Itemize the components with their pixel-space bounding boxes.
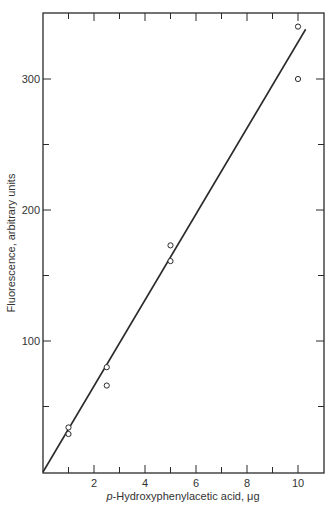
plot-frame [43, 13, 324, 473]
data-point [104, 365, 109, 370]
x-tick-label: 8 [244, 477, 250, 489]
data-point [295, 76, 300, 81]
data-point [66, 425, 71, 430]
plot-border [43, 13, 324, 473]
x-axis-label-prefix: p [105, 490, 112, 502]
y-tick-label: 100 [22, 335, 40, 347]
fit-line [43, 29, 306, 472]
x-axis-ticks: 246810 [69, 13, 305, 489]
data-point [104, 383, 109, 388]
y-tick-label: 300 [22, 73, 40, 85]
data-point [168, 243, 173, 248]
x-tick-label: 2 [91, 477, 97, 489]
y-axis-ticks: 100200300 [22, 73, 324, 407]
y-axis-label: Fluorescence, arbitrary units [5, 173, 17, 312]
y-tick-label: 200 [22, 204, 40, 216]
x-tick-label: 4 [142, 477, 148, 489]
x-axis-label-rest: -Hydroxyphenylacetic acid, μg [113, 490, 260, 502]
data-point [66, 431, 71, 436]
chart-canvas: 246810 100200300 p-Hydroxyphenylacetic a… [0, 0, 336, 509]
x-tick-label: 6 [193, 477, 199, 489]
data-point [168, 258, 173, 263]
x-axis-label: p-Hydroxyphenylacetic acid, μg [105, 490, 259, 502]
data-point [295, 24, 300, 29]
regression-line [43, 29, 306, 472]
x-tick-label: 10 [292, 477, 304, 489]
